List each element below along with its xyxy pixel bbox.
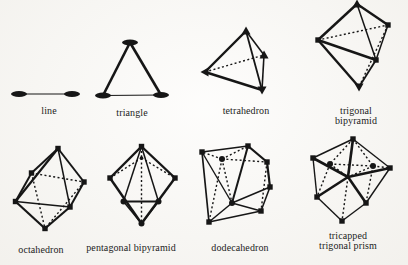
vertex-square bbox=[55, 146, 60, 151]
vertex-square bbox=[245, 143, 250, 148]
vertex-circle bbox=[219, 156, 225, 162]
page: line triangle tetrahedron trigonal bipyr… bbox=[0, 0, 408, 265]
hidden-edge bbox=[318, 25, 388, 40]
vertex-circle bbox=[327, 161, 333, 167]
figure-label-triangle: triangle bbox=[116, 108, 147, 118]
edge bbox=[246, 31, 262, 90]
figure-dodecahedron bbox=[199, 143, 272, 224]
vertex-ellipse bbox=[64, 91, 80, 97]
vertex-ellipse bbox=[11, 91, 27, 97]
edge bbox=[45, 207, 70, 229]
hidden-edge bbox=[330, 164, 348, 177]
edge bbox=[205, 72, 262, 90]
figure-label-dodecahedron: dodecahedron bbox=[211, 243, 268, 253]
edge bbox=[16, 202, 46, 229]
edge bbox=[317, 197, 342, 221]
figure-label-tetrahedron: tetrahedron bbox=[223, 106, 270, 116]
vertex-square bbox=[264, 159, 269, 164]
vertex-square bbox=[267, 184, 272, 189]
edge bbox=[202, 146, 248, 152]
vertex-square bbox=[199, 149, 204, 154]
edge bbox=[16, 149, 59, 202]
figure-triangle bbox=[95, 40, 169, 99]
edge bbox=[342, 203, 366, 221]
vertex-square bbox=[206, 219, 211, 224]
vertex-square bbox=[350, 136, 355, 141]
vertex-square bbox=[42, 226, 47, 231]
edge bbox=[16, 173, 32, 202]
vertex-circle bbox=[139, 221, 145, 227]
edge bbox=[205, 31, 246, 72]
hidden-edge bbox=[32, 173, 46, 229]
vertex-triangle-up bbox=[242, 27, 251, 35]
vertex-circle bbox=[156, 199, 162, 205]
edge bbox=[317, 177, 348, 197]
hidden-edge bbox=[330, 164, 373, 166]
vertex-circle bbox=[370, 163, 376, 169]
edge bbox=[124, 202, 142, 224]
vertex-triangle-up bbox=[353, 0, 362, 8]
vertex-square bbox=[315, 37, 320, 42]
diagram-canvas bbox=[0, 0, 408, 265]
vertex-square bbox=[67, 204, 72, 209]
vertex-square bbox=[172, 175, 177, 180]
vertex-square bbox=[339, 218, 344, 223]
edge bbox=[142, 202, 159, 224]
edge bbox=[267, 162, 270, 187]
vertex-square bbox=[13, 199, 18, 204]
vertex-triangle-down bbox=[355, 84, 364, 92]
figure-line bbox=[11, 91, 80, 97]
edge bbox=[232, 146, 248, 203]
vertex-square bbox=[363, 200, 368, 205]
vertex-square bbox=[310, 155, 315, 160]
figure-pentagonal-bipyramid bbox=[107, 144, 177, 227]
hidden-edge bbox=[222, 159, 232, 203]
vertex-square bbox=[139, 144, 144, 149]
vertex-dot bbox=[346, 175, 350, 179]
edge bbox=[103, 43, 130, 96]
edge bbox=[348, 139, 353, 177]
edge bbox=[248, 146, 267, 162]
edge bbox=[313, 139, 353, 158]
vertex-square bbox=[385, 22, 390, 27]
hidden-edge bbox=[342, 177, 348, 221]
vertex-circle bbox=[121, 199, 127, 205]
vertex-ellipse bbox=[153, 92, 169, 98]
edge bbox=[359, 60, 376, 87]
vertex-square bbox=[387, 165, 392, 170]
vertex-square bbox=[29, 170, 34, 175]
figure-label-tricapped-trigonal-prism: tricapped trigonal prism bbox=[319, 231, 377, 251]
edge bbox=[70, 182, 84, 207]
figure-octahedron bbox=[13, 146, 87, 231]
figure-tetrahedron bbox=[201, 27, 269, 95]
edge bbox=[313, 158, 348, 177]
edge bbox=[232, 203, 261, 211]
figure-trigonal-bipyramid bbox=[315, 0, 390, 92]
edge bbox=[16, 202, 71, 208]
vertex-square bbox=[107, 175, 112, 180]
figure-label-trigonal-bipyramid: trigonal bipyramid bbox=[330, 106, 382, 126]
figure-label-pentagonal-bipyramid: pentagonal bipyramid bbox=[86, 243, 175, 253]
hidden-edge bbox=[32, 173, 85, 182]
figure-label-octahedron: octahedron bbox=[18, 245, 63, 255]
vertex-dot bbox=[140, 156, 144, 160]
edge bbox=[130, 43, 161, 96]
edge bbox=[348, 168, 390, 177]
figure-label-line: line bbox=[41, 106, 56, 116]
edge bbox=[357, 4, 388, 25]
edge bbox=[357, 4, 376, 60]
vertex-triangle-left bbox=[201, 68, 209, 77]
vertex-ellipse bbox=[122, 40, 138, 46]
vertex-square bbox=[81, 179, 86, 184]
edge bbox=[318, 4, 357, 40]
edge bbox=[313, 158, 317, 197]
edge bbox=[103, 95, 161, 96]
edge bbox=[348, 177, 366, 203]
vertex-square bbox=[373, 57, 378, 62]
vertex-triangle-down bbox=[258, 87, 267, 95]
edge bbox=[262, 55, 264, 90]
vertex-square bbox=[258, 208, 263, 213]
vertex-circle bbox=[229, 200, 235, 206]
vertex-square bbox=[314, 194, 319, 199]
vertex-ellipse bbox=[95, 93, 111, 99]
